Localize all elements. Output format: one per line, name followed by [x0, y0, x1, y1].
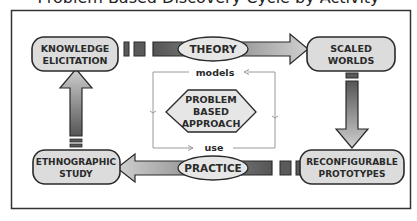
svg-text:ETHNOGRAPHIC: ETHNOGRAPHIC	[36, 157, 117, 167]
svg-text:PROTOTYPES: PROTOTYPES	[319, 169, 386, 179]
svg-text:PROBLEM: PROBLEM	[185, 94, 237, 105]
svg-text:KNOWLEDGE: KNOWLEDGE	[41, 43, 110, 54]
models-label: models	[196, 67, 235, 78]
node-scaled-worlds: SCALED WORLDS	[307, 37, 395, 71]
node-reconfigurable-prototypes: RECONFIGURABLE PROTOTYPES	[300, 150, 404, 184]
right-down-arrow	[336, 73, 368, 148]
problem-based-approach-hexagon: PROBLEM BASED APPROACH	[166, 90, 256, 132]
svg-text:RECONFIGURABLE: RECONFIGURABLE	[306, 157, 398, 167]
node-ethnographic-study: ETHNOGRAPHIC STUDY	[33, 150, 120, 184]
svg-text:SCALED: SCALED	[330, 43, 372, 54]
svg-text:PRACTICE: PRACTICE	[184, 162, 242, 174]
practice-label: PRACTICE	[178, 156, 248, 180]
node-knowledge-elicitation: KNOWLEDGE ELICITATION	[32, 37, 118, 71]
left-up-arrow	[60, 69, 92, 147]
cycle-diagram: THEORY PRACTICE models use PROBLEM BASED…	[0, 0, 417, 221]
svg-text:THEORY: THEORY	[189, 43, 237, 55]
svg-text:APPROACH: APPROACH	[182, 118, 241, 129]
svg-text:BASED: BASED	[193, 106, 229, 117]
theory-label: THEORY	[178, 37, 248, 61]
svg-text:STUDY: STUDY	[59, 169, 93, 179]
svg-text:ELICITATION: ELICITATION	[43, 55, 108, 66]
use-label: use	[205, 142, 224, 153]
svg-text:WORLDS: WORLDS	[328, 55, 375, 66]
